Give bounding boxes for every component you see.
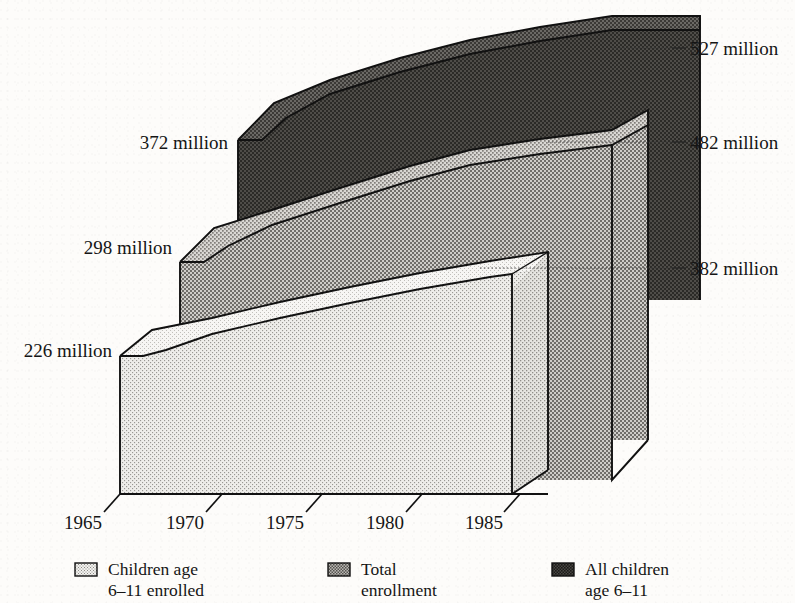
- legend-label-line1-children-enrolled: Children age: [108, 559, 198, 579]
- tick-1985: [504, 494, 520, 512]
- chart-legend: Children age 6–11 enrolled Total enrollm…: [75, 559, 669, 600]
- legend-label-line2-all-children: age 6–11: [585, 580, 648, 600]
- left-label-all-children: 372 million: [140, 132, 229, 153]
- legend-label-line1-total-enrollment: Total: [361, 559, 397, 579]
- tick-1980: [406, 494, 422, 512]
- x-tick-label-1965: 1965: [64, 512, 102, 533]
- x-tick-label-1970: 1970: [166, 512, 204, 533]
- tick-1975: [306, 494, 322, 512]
- chart-canvas: 372 million 298 million 226 million 527 …: [0, 0, 795, 603]
- x-tick-label-1980: 1980: [366, 512, 404, 533]
- tick-1965: [104, 494, 120, 512]
- left-label-children-enrolled: 226 million: [24, 340, 113, 361]
- right-label-all-children: 527 million: [690, 38, 779, 59]
- legend-item-all-children[interactable]: All children age 6–11: [552, 559, 669, 600]
- slab-end-cap-light: [512, 252, 548, 494]
- legend-label-line2-total-enrollment: enrollment: [361, 580, 437, 600]
- medium-dither-swatch: [328, 563, 350, 576]
- x-tick-label-1985: 1985: [465, 512, 503, 533]
- legend-label-line1-all-children: All children: [585, 559, 669, 579]
- x-axis-ticks: [104, 494, 520, 512]
- dark-dither-swatch: [552, 563, 574, 576]
- legend-label-line2-children-enrolled: 6–11 enrolled: [108, 580, 204, 600]
- legend-item-children-enrolled[interactable]: Children age 6–11 enrolled: [75, 559, 204, 600]
- light-dither-swatch: [75, 563, 97, 576]
- right-label-children-enrolled: 382 million: [690, 258, 779, 279]
- x-tick-label-1975: 1975: [266, 512, 304, 533]
- ribbon-chart-figure: 372 million 298 million 226 million 527 …: [0, 0, 795, 603]
- right-label-total-enrollment: 482 million: [690, 132, 779, 153]
- tick-1970: [206, 494, 222, 512]
- left-label-total-enrollment: 298 million: [84, 237, 173, 258]
- legend-item-total-enrollment[interactable]: Total enrollment: [328, 559, 437, 600]
